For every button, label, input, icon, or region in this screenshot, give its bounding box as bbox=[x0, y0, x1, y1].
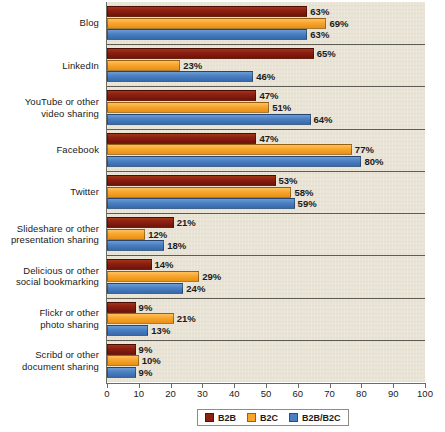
x-tick-label: 70 bbox=[324, 388, 335, 399]
legend-swatch-icon bbox=[247, 413, 256, 422]
bar-b2b-b2c bbox=[107, 240, 164, 251]
bar-value-label: 13% bbox=[151, 325, 170, 336]
category-axis-labels: BlogLinkedInYouTube or othervideo sharin… bbox=[0, 2, 103, 382]
legend-label: B2B bbox=[218, 413, 236, 423]
bar-value-label: 47% bbox=[259, 90, 278, 101]
bar-b2c bbox=[107, 313, 174, 324]
bar-value-label: 9% bbox=[139, 367, 153, 378]
bar-value-label: 58% bbox=[294, 187, 313, 198]
x-tick-label: 100 bbox=[417, 388, 433, 399]
x-tick-label: 0 bbox=[104, 388, 109, 399]
category-label: Delicious or othersocial bookmarking bbox=[0, 265, 99, 288]
bar-value-label: 9% bbox=[139, 344, 153, 355]
group-separator bbox=[107, 213, 425, 214]
category-label-line: Blog bbox=[0, 17, 99, 29]
x-tick-label: 90 bbox=[388, 388, 399, 399]
bar-b2b bbox=[107, 259, 152, 270]
category-label: Flickr or otherphoto sharing bbox=[0, 307, 99, 330]
group-separator bbox=[107, 129, 425, 130]
category-label-line: LinkedIn bbox=[0, 60, 99, 72]
bar-value-label: 29% bbox=[202, 271, 221, 282]
bar-b2b-b2c bbox=[107, 367, 136, 378]
legend-label: B2C bbox=[260, 413, 278, 423]
bar-b2b bbox=[107, 6, 307, 17]
chart-legend: B2BB2CB2B/B2C bbox=[197, 409, 349, 426]
category-label: Slideshare or otherpresentation sharing bbox=[0, 223, 99, 246]
bar-value-label: 18% bbox=[167, 240, 186, 251]
bar-b2b-b2c bbox=[107, 283, 183, 294]
bar-b2b-b2c bbox=[107, 71, 253, 82]
bar-b2c bbox=[107, 18, 326, 29]
bar-b2c bbox=[107, 187, 291, 198]
legend-label: B2B/B2C bbox=[302, 413, 341, 423]
category-label-line: Twitter bbox=[0, 186, 99, 198]
bar-value-label: 21% bbox=[177, 313, 196, 324]
x-tick-label: 40 bbox=[229, 388, 240, 399]
legend-item-b2b[interactable]: B2B bbox=[205, 413, 236, 423]
category-label-line: Flickr or other bbox=[0, 307, 99, 319]
category-label-line: photo sharing bbox=[0, 319, 99, 331]
group-separator bbox=[107, 298, 425, 299]
category-label-line: YouTube or other bbox=[0, 96, 99, 108]
bar-value-label: 69% bbox=[329, 18, 348, 29]
group-separator bbox=[107, 86, 425, 87]
category-label-line: Facebook bbox=[0, 144, 99, 156]
bar-b2c bbox=[107, 229, 145, 240]
bar-b2b bbox=[107, 217, 174, 228]
bar-b2c bbox=[107, 102, 269, 113]
bar-value-label: 23% bbox=[183, 60, 202, 71]
group-separator bbox=[107, 44, 425, 45]
bar-value-label: 12% bbox=[148, 229, 167, 240]
x-tick-label: 60 bbox=[293, 388, 304, 399]
bar-b2b bbox=[107, 133, 256, 144]
bar-b2b bbox=[107, 175, 276, 186]
category-label: Facebook bbox=[0, 144, 99, 156]
group-separator bbox=[107, 255, 425, 256]
category-label: Scribd or otherdocument sharing bbox=[0, 349, 99, 372]
bar-b2c bbox=[107, 144, 352, 155]
bar-value-label: 65% bbox=[317, 48, 336, 59]
category-label-line: Scribd or other bbox=[0, 349, 99, 361]
bar-value-label: 10% bbox=[142, 355, 161, 366]
bar-b2c bbox=[107, 60, 180, 71]
x-tick-label: 80 bbox=[356, 388, 367, 399]
bar-b2c bbox=[107, 271, 199, 282]
bar-b2b-b2c bbox=[107, 325, 148, 336]
legend-item-b2c[interactable]: B2C bbox=[247, 413, 278, 423]
bar-value-label: 77% bbox=[355, 144, 374, 155]
category-label: LinkedIn bbox=[0, 60, 99, 72]
bar-value-label: 63% bbox=[310, 6, 329, 17]
category-label-line: Slideshare or other bbox=[0, 223, 99, 235]
legend-swatch-icon bbox=[289, 413, 298, 422]
category-label: Twitter bbox=[0, 186, 99, 198]
bar-value-label: 63% bbox=[310, 29, 329, 40]
plot-area: 63%69%63%65%23%46%47%51%64%47%77%80%53%5… bbox=[107, 2, 425, 382]
bar-b2b bbox=[107, 48, 314, 59]
bar-value-label: 64% bbox=[314, 114, 333, 125]
category-label-line: presentation sharing bbox=[0, 234, 99, 246]
group-separator bbox=[107, 340, 425, 341]
group-separator bbox=[107, 171, 425, 172]
x-tick-label: 50 bbox=[261, 388, 272, 399]
category-label-line: document sharing bbox=[0, 361, 99, 373]
category-label: Blog bbox=[0, 17, 99, 29]
bar-b2b bbox=[107, 344, 136, 355]
bar-b2b-b2c bbox=[107, 114, 311, 125]
bar-b2c bbox=[107, 355, 139, 366]
bar-value-label: 80% bbox=[364, 156, 383, 167]
bar-b2b-b2c bbox=[107, 198, 295, 209]
y-axis-line bbox=[106, 2, 107, 384]
bar-b2b-b2c bbox=[107, 29, 307, 40]
legend-item-b2b-b2c[interactable]: B2B/B2C bbox=[289, 413, 341, 423]
bar-value-label: 9% bbox=[139, 302, 153, 313]
x-tick-label: 10 bbox=[134, 388, 145, 399]
x-tick-label: 20 bbox=[165, 388, 176, 399]
bar-value-label: 14% bbox=[155, 259, 174, 270]
bar-b2b-b2c bbox=[107, 156, 361, 167]
bar-value-label: 21% bbox=[177, 217, 196, 228]
bar-b2b bbox=[107, 90, 256, 101]
bar-value-label: 47% bbox=[259, 133, 278, 144]
category-label: YouTube or othervideo sharing bbox=[0, 96, 99, 119]
bar-value-label: 46% bbox=[256, 71, 275, 82]
category-label-line: Delicious or other bbox=[0, 265, 99, 277]
